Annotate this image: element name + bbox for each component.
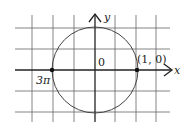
point-left [50, 68, 54, 72]
x-axis-label: x [174, 64, 181, 77]
unit-circle-diagram: x y 0 (1, 0) 3π [0, 0, 185, 133]
point-right [135, 68, 139, 72]
point-right-label: (1, 0) [137, 53, 167, 66]
axes [15, 14, 172, 122]
origin-label: 0 [98, 56, 105, 69]
point-left-label: 3π [36, 74, 51, 87]
y-axis-label: y [103, 11, 111, 24]
grid [15, 15, 170, 122]
